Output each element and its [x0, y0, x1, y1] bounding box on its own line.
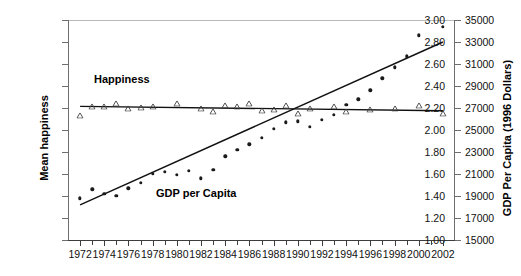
data-point-happiness [198, 106, 205, 112]
x-tick-label: 2000 [407, 249, 430, 260]
plot-area: 1.001.201.401.601.802.002.202.402.602.80… [68, 20, 455, 240]
y-tick-label-right: 23000 [465, 147, 494, 158]
y-tick-right [455, 86, 461, 87]
y-tick-right [455, 64, 461, 65]
x-tick-label: 1976 [117, 249, 140, 260]
data-point-happiness [246, 100, 253, 106]
data-point-happiness [294, 110, 301, 116]
data-point-happiness [331, 103, 338, 109]
data-point-happiness [222, 102, 229, 108]
y-tick-label-right: 25000 [465, 125, 494, 136]
x-tick-label: 1990 [286, 249, 309, 260]
data-point-happiness [125, 106, 132, 112]
y-tick-label-right: 15000 [465, 235, 494, 246]
data-point-happiness [282, 102, 289, 108]
y-tick-label-right: 17000 [465, 213, 494, 224]
data-point-happiness [391, 106, 398, 112]
data-point-happiness [89, 103, 96, 109]
x-tick-label: 1978 [141, 249, 164, 260]
data-point-happiness [258, 108, 265, 114]
axis-title-right: GDP Per Capita (1996 Dollars) [501, 60, 512, 216]
y-tick-label-right: 27000 [465, 103, 494, 114]
y-tick-label-right: 35000 [465, 15, 494, 26]
data-point-happiness [137, 105, 144, 111]
y-tick-right [455, 196, 461, 197]
series-annotation-happiness: Happiness [94, 74, 150, 85]
x-tick-label: 1984 [214, 249, 237, 260]
y-tick-right [455, 218, 461, 219]
data-overlay [68, 20, 455, 241]
x-tick-label: 1972 [68, 249, 91, 260]
x-tick-label: 1982 [189, 249, 212, 260]
x-tick-label: 2002 [431, 249, 454, 260]
series-annotation-gdp: GDP per Capita [156, 188, 237, 199]
x-tick-label: 1986 [238, 249, 261, 260]
x-tick-label: 1994 [334, 249, 357, 260]
y-tick-label-right: 31000 [465, 59, 494, 70]
x-tick-label: 1998 [383, 249, 406, 260]
x-tick-label: 1988 [262, 249, 285, 260]
chart-figure: 1.001.201.401.601.802.002.202.402.602.80… [0, 0, 521, 276]
data-point-happiness [415, 102, 422, 108]
x-tick-label: 1980 [165, 249, 188, 260]
data-point-happiness [173, 100, 180, 106]
y-tick-label-right: 19000 [465, 191, 494, 202]
data-point-happiness [367, 107, 374, 113]
data-point-happiness [101, 103, 108, 109]
y-tick-right [455, 152, 461, 153]
data-point-happiness [149, 103, 156, 109]
data-point-happiness [234, 103, 241, 109]
data-point-happiness [439, 110, 446, 116]
data-point-happiness [210, 109, 217, 115]
y-tick-right [455, 240, 461, 241]
axis-title-left: Mean happiness [39, 95, 50, 181]
data-point-happiness [113, 100, 120, 106]
y-tick-right [455, 42, 461, 43]
y-tick-right [455, 130, 461, 131]
x-tick-label: 1974 [93, 249, 116, 260]
data-point-happiness [343, 109, 350, 115]
y-tick-right [455, 20, 461, 21]
data-point-happiness [270, 107, 277, 113]
data-point-happiness [306, 106, 313, 112]
y-tick-label-right: 21000 [465, 169, 494, 180]
trend-line-gdp [80, 42, 443, 205]
y-tick-label-right: 29000 [465, 81, 494, 92]
data-point-happiness [77, 112, 84, 118]
x-tick-label: 1992 [310, 249, 333, 260]
y-tick-label-right: 33000 [465, 37, 494, 48]
y-tick-right [455, 174, 461, 175]
x-tick-label: 1996 [359, 249, 382, 260]
y-tick-right [455, 108, 461, 109]
